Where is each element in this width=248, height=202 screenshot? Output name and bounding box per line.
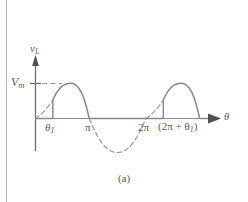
x-tick-label-pi: π [85,122,91,133]
x-axis-arrowhead-icon [208,114,221,124]
y-axis-label-subscript: L [35,47,39,56]
figure-container: vL Vm θ1 π 2π (2π + θ1) θ (a) [0,0,248,202]
x-tick-label-2pi-plus-theta1: (2π + θ1) [158,121,197,134]
x-tick-2pi-theta1-prefix: (2π + θ [158,120,190,132]
dashed-arc-start [36,100,53,118]
x-tick-2pi-theta1-suffix: ) [194,120,198,132]
solid-hump-1 [53,83,89,118]
amplitude-label-subscript: m [18,80,24,90]
x-axis-label: θ [224,111,229,122]
amplitude-label: Vm [11,76,25,90]
figure-caption: (a) [0,172,248,184]
y-axis-label: vL [30,43,39,56]
conducting-output-solid [36,83,209,118]
y-axis [32,55,39,151]
x-tick-label-2pi: 2π [138,122,149,133]
y-axis-arrowhead-icon [32,55,39,66]
x-tick-label-theta1: θ1 [45,122,54,135]
x-tick-theta1-subscript: 1 [50,126,54,135]
solid-hump-2 [163,83,199,118]
dashed-arc-second-start [146,100,164,118]
